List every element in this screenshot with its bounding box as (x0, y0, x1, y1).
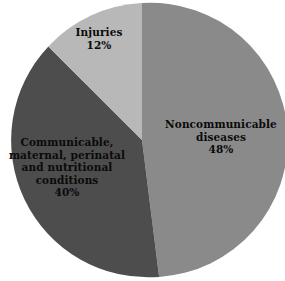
pie-slice-noncommunicable-diseases[interactable] (142, 3, 285, 277)
pie-chart-canvas (0, 0, 285, 281)
pie-chart: Noncommunicable diseases 48% Communicabl… (0, 0, 285, 281)
